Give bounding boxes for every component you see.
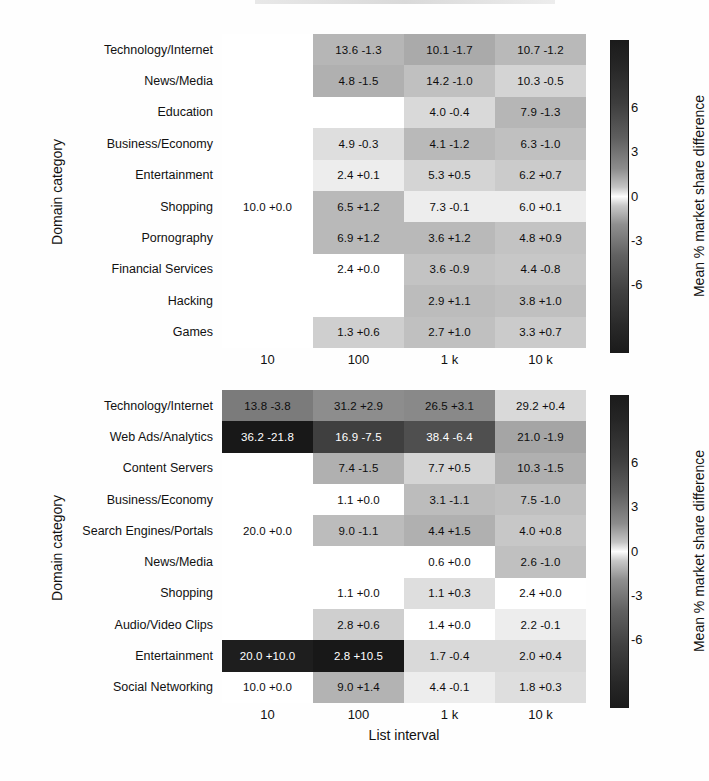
heatmap-cell xyxy=(222,546,313,577)
column-label-row-bottom: 101001 k10 k xyxy=(222,704,586,726)
row-label: Shopping xyxy=(42,578,222,609)
heatmap-cell: 1.4 +0.0 xyxy=(404,609,495,640)
heatmap-cell: 10.3 -1.5 xyxy=(495,453,586,484)
heatmap-cell: 16.9 -7.5 xyxy=(313,421,404,452)
heatmap-cell xyxy=(222,609,313,640)
row-label: Technology/Internet xyxy=(42,390,222,421)
heatmap-cell: 2.8 +10.5 xyxy=(313,640,404,671)
heatmap-cell: 10.0 +0.0 xyxy=(222,672,313,703)
heatmap-cell: 38.4 -6.4 xyxy=(404,421,495,452)
heatmap-cell: 4.4 -0.1 xyxy=(404,672,495,703)
heatmap-cell: 1.1 +0.3 xyxy=(404,578,495,609)
colorbar-tick: 3 xyxy=(631,499,638,514)
heatmap-cell: 2.0 +0.4 xyxy=(495,640,586,671)
row-label: Web Ads/Analytics xyxy=(42,421,222,452)
heatmap-cell: 3.1 -1.1 xyxy=(404,484,495,515)
column-label: 100 xyxy=(313,704,404,726)
row-label: Social Networking xyxy=(42,672,222,703)
heatmap-cell xyxy=(313,546,404,577)
colorbar-tick: -3 xyxy=(631,587,643,602)
heatmap-cell: 1.8 +0.3 xyxy=(495,672,586,703)
column-label: 1 k xyxy=(404,704,495,726)
colorbar-title-bottom: Mean % market share difference xyxy=(691,396,709,706)
heatmap-cell: 13.8 -3.8 xyxy=(222,390,313,421)
x-axis-title: List interval xyxy=(222,727,586,743)
colorbar-tick: 6 xyxy=(631,454,638,469)
colorbar-tick: -6 xyxy=(631,632,643,647)
heatmap-cell: 9.0 -1.1 xyxy=(313,515,404,546)
heatmap-cell: 21.0 -1.9 xyxy=(495,421,586,452)
heatmap-cell xyxy=(222,484,313,515)
heatmap-cell: 0.6 +0.0 xyxy=(404,546,495,577)
heatmap-cell: 29.2 +0.4 xyxy=(495,390,586,421)
heatmap-cell: 1.7 -0.4 xyxy=(404,640,495,671)
heatmap-cell: 7.5 -1.0 xyxy=(495,484,586,515)
heatmap-cell: 7.7 +0.5 xyxy=(404,453,495,484)
colorbar-ticks-bottom: 630-3-6 xyxy=(631,395,655,706)
heatmap-cell: 36.2 -21.8 xyxy=(222,421,313,452)
row-label: Business/Economy xyxy=(42,484,222,515)
row-label: Entertainment xyxy=(42,640,222,671)
row-label: News/Media xyxy=(42,546,222,577)
heatmap-cell: 20.0 +0.0 xyxy=(222,515,313,546)
colorbar-bottom xyxy=(610,395,629,708)
heatmap-grid-bottom: 13.8 -3.831.2 +2.926.5 +3.129.2 +0.436.2… xyxy=(222,390,586,703)
heatmap-cell: 31.2 +2.9 xyxy=(313,390,404,421)
heatmap-cell: 2.4 +0.0 xyxy=(495,578,586,609)
column-label: 10 k xyxy=(495,704,586,726)
heatmap-cell: 7.4 -1.5 xyxy=(313,453,404,484)
heatmap-cell: 20.0 +10.0 xyxy=(222,640,313,671)
heatmap-cell: 9.0 +1.4 xyxy=(313,672,404,703)
heatmap-cell: 1.1 +0.0 xyxy=(313,578,404,609)
heatmap-cell: 26.5 +3.1 xyxy=(404,390,495,421)
heatmap-cell xyxy=(222,453,313,484)
heatmap-cell: 1.1 +0.0 xyxy=(313,484,404,515)
heatmap-cell: 4.4 +1.5 xyxy=(404,515,495,546)
heatmap-cell xyxy=(222,578,313,609)
colorbar-tick: 0 xyxy=(631,543,638,558)
row-label-column-bottom: Technology/InternetWeb Ads/AnalyticsCont… xyxy=(42,390,222,703)
row-label: Search Engines/Portals xyxy=(42,515,222,546)
column-label: 10 xyxy=(222,704,313,726)
heatmap-cell: 2.8 +0.6 xyxy=(313,609,404,640)
row-label: Audio/Video Clips xyxy=(42,609,222,640)
heatmap-cell: 2.6 -1.0 xyxy=(495,546,586,577)
row-label: Content Servers xyxy=(42,453,222,484)
heatmap-cell: 2.2 -0.1 xyxy=(495,609,586,640)
heatmap-cell: 4.0 +0.8 xyxy=(495,515,586,546)
